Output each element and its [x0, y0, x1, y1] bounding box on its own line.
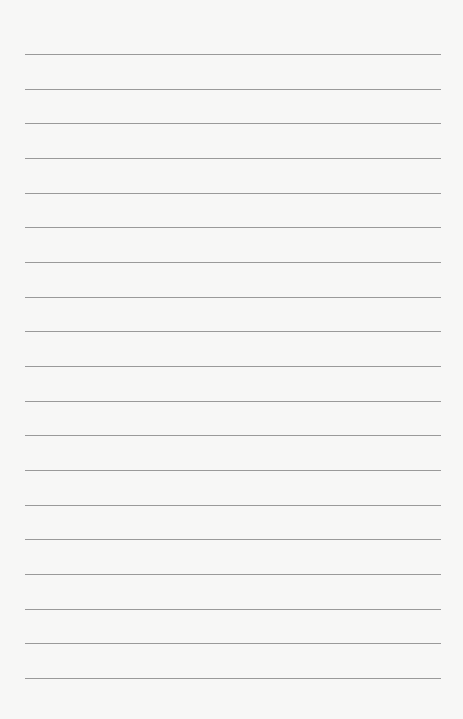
ruled-line: [25, 123, 441, 124]
ruled-line: [25, 470, 441, 471]
ruled-line: [25, 89, 441, 90]
ruled-line: [25, 609, 441, 610]
ruled-line: [25, 401, 441, 402]
ruled-line: [25, 505, 441, 506]
ruled-line: [25, 331, 441, 332]
ruled-line: [25, 54, 441, 55]
ruled-line: [25, 158, 441, 159]
ruled-line: [25, 262, 441, 263]
ruled-line: [25, 193, 441, 194]
ruled-line: [25, 227, 441, 228]
ruled-line: [25, 539, 441, 540]
ruled-line: [25, 435, 441, 436]
ruled-line: [25, 643, 441, 644]
lined-paper-sheet: [0, 0, 463, 719]
ruled-line: [25, 574, 441, 575]
ruled-line: [25, 366, 441, 367]
ruled-line: [25, 678, 441, 679]
ruled-line: [25, 297, 441, 298]
